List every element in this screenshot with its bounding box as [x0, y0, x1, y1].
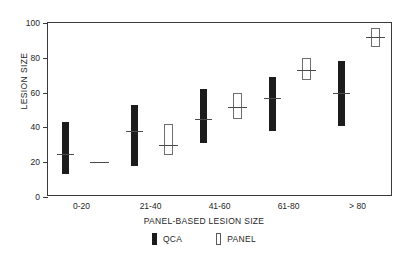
- y-axis-title: LESION SIZE: [19, 21, 29, 141]
- median-marker-qca-2140: [126, 131, 143, 132]
- range-bar-qca-6180: [269, 77, 276, 131]
- y-axis-tick: 20: [43, 162, 48, 163]
- y-axis-tick-label: 80: [31, 53, 40, 63]
- median-marker-panel-2140: [159, 145, 178, 146]
- y-axis-tick: 40: [43, 127, 48, 128]
- median-marker-qca-4160: [195, 119, 212, 120]
- range-bar-qca-4160: [200, 89, 207, 143]
- x-axis-tick-label: > 80: [349, 201, 366, 211]
- legend-entry-panel: PANEL: [216, 233, 256, 245]
- x-axis-title: PANEL-BASED LESION SIZE: [0, 216, 408, 226]
- y-axis-tick: 0: [43, 197, 48, 198]
- median-marker-qca-020: [57, 154, 74, 155]
- median-marker-qca-6180: [264, 98, 281, 99]
- x-axis-tick-label: 61-80: [278, 201, 300, 211]
- y-axis-tick: 100: [43, 23, 48, 24]
- x-axis-tick-label: 21-40: [140, 201, 162, 211]
- range-bar-qca-020: [62, 122, 69, 174]
- y-axis-tick: 60: [43, 93, 48, 94]
- y-axis-tick-label: 40: [31, 122, 40, 132]
- median-marker-panel-80: [366, 37, 385, 38]
- x-axis-tick-label: 41-60: [209, 201, 231, 211]
- y-axis-tick-label: 0: [35, 192, 40, 202]
- median-marker-panel-020: [90, 162, 109, 163]
- legend-entry-qca: QCA: [152, 233, 182, 245]
- y-axis-tick-label: 60: [31, 88, 40, 98]
- legend-swatch-qca-icon: [152, 233, 157, 245]
- range-bar-qca-2140: [131, 105, 138, 166]
- median-marker-panel-4160: [228, 107, 247, 108]
- median-marker-panel-6180: [297, 70, 316, 71]
- y-axis-tick-label: 100: [26, 18, 40, 28]
- x-axis-tick-label: 0-20: [73, 201, 90, 211]
- range-bar-panel-2140: [164, 124, 173, 155]
- chart-legend: QCAPANEL: [0, 233, 408, 245]
- y-axis-tick: 80: [43, 58, 48, 59]
- legend-label: QCA: [163, 234, 182, 244]
- plot-area: 020406080100: [47, 22, 392, 196]
- legend-swatch-panel-icon: [216, 233, 221, 245]
- y-axis-tick-label: 20: [31, 157, 40, 167]
- median-marker-qca-80: [333, 93, 350, 94]
- lesion-size-chart-figure: LESION SIZE 020406080100 0-2021-4041-606…: [0, 0, 408, 260]
- legend-label: PANEL: [227, 234, 256, 244]
